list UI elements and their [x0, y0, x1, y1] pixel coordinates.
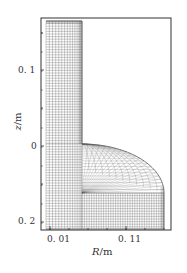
mesh-figure: 0. 1 0 0. 2 0. 01 0. 11 R/m z/m: [0, 0, 187, 273]
x-tick-label-0.01: 0. 01: [47, 234, 70, 244]
x-axis-var: R: [92, 246, 100, 257]
y-axis-unit: /m: [12, 112, 23, 125]
x-axis-title: R/m: [92, 246, 112, 257]
x-tick-label-0.11: 0. 11: [118, 234, 141, 244]
y-tick-label-0: 0: [31, 141, 37, 151]
computational-mesh: [46, 21, 164, 229]
y-axis-title: z/m: [12, 112, 23, 130]
y-axis-var: z: [12, 125, 23, 130]
plot-area: [0, 0, 187, 273]
x-axis-unit: /m: [100, 246, 113, 257]
y-tick-label-0.2: 0. 2: [18, 216, 35, 226]
y-tick-label-0.1: 0. 1: [18, 65, 35, 75]
